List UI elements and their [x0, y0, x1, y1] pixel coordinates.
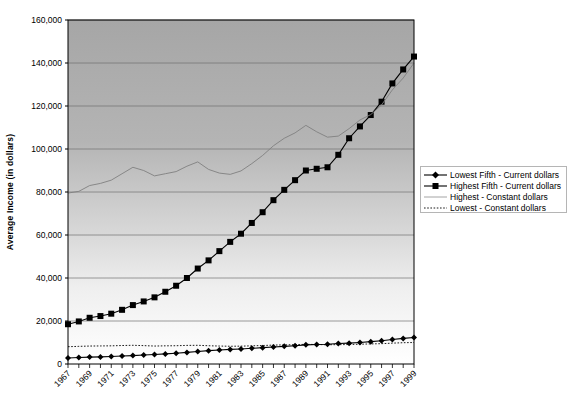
y-tick-label: 20,000 — [36, 316, 62, 326]
x-tick-label: 1991 — [311, 368, 332, 389]
legend-item-label[interactable]: Lowest - Constant dollars — [450, 203, 546, 213]
data-point-marker — [238, 231, 244, 237]
x-tick-label: 1969 — [74, 368, 95, 389]
x-tick-label: 1989 — [290, 368, 311, 389]
data-point-marker — [206, 257, 212, 263]
legend-item-label[interactable]: Lowest Fifth - Current dollars — [450, 170, 559, 180]
chart-legend: Lowest Fifth - Current dollarsHighest Fi… — [421, 167, 567, 214]
y-axis-title: Average Income (in dollars) — [5, 134, 15, 251]
y-axis-ticks: 020,00040,00060,00080,000100,000120,0001… — [31, 15, 68, 369]
data-point-marker — [152, 294, 158, 300]
data-point-marker — [108, 311, 114, 317]
data-point-marker — [173, 283, 179, 289]
data-point-marker — [270, 197, 276, 203]
data-point-marker — [303, 168, 309, 174]
data-point-marker — [357, 123, 363, 129]
data-point-marker — [141, 298, 147, 304]
data-point-marker — [195, 266, 201, 272]
x-tick-label: 1975 — [138, 368, 159, 389]
x-tick-label: 1995 — [355, 368, 376, 389]
data-point-marker — [119, 307, 125, 313]
data-point-marker — [346, 135, 352, 141]
legend-marker — [433, 183, 439, 189]
chart-container: 020,00040,00060,00080,000100,000120,0001… — [0, 0, 572, 414]
data-point-marker — [260, 209, 266, 215]
y-tick-label: 60,000 — [36, 230, 62, 240]
y-tick-label: 0 — [57, 359, 62, 369]
x-axis-ticks: 1967196919711973197519771979198119831985… — [52, 364, 419, 389]
x-tick-label: 1997 — [376, 368, 397, 389]
data-point-marker — [162, 289, 168, 295]
data-point-marker — [389, 80, 395, 86]
income-line-chart: 020,00040,00060,00080,000100,000120,0001… — [0, 0, 572, 414]
data-point-marker — [130, 302, 136, 308]
x-tick-label: 1999 — [398, 368, 419, 389]
x-tick-label: 1967 — [52, 368, 73, 389]
data-point-marker — [335, 152, 341, 158]
y-tick-label: 100,000 — [31, 144, 62, 154]
y-tick-label: 40,000 — [36, 273, 62, 283]
data-point-marker — [400, 66, 406, 72]
x-tick-label: 1983 — [225, 368, 246, 389]
y-tick-label: 160,000 — [31, 15, 62, 25]
y-tick-label: 140,000 — [31, 58, 62, 68]
data-point-marker — [227, 239, 233, 245]
x-tick-label: 1993 — [333, 368, 354, 389]
x-tick-label: 1985 — [247, 368, 268, 389]
x-tick-label: 1973 — [117, 368, 138, 389]
data-point-marker — [325, 164, 331, 170]
y-tick-label: 80,000 — [36, 187, 62, 197]
x-tick-label: 1977 — [160, 368, 181, 389]
data-point-marker — [249, 220, 255, 226]
x-tick-label: 1981 — [203, 368, 224, 389]
data-point-marker — [216, 248, 222, 254]
data-point-marker — [292, 177, 298, 183]
legend-item-label[interactable]: Highest Fifth - Current dollars — [450, 181, 561, 191]
data-point-marker — [97, 313, 103, 319]
data-point-marker — [87, 315, 93, 321]
y-tick-label: 120,000 — [31, 101, 62, 111]
data-point-marker — [184, 275, 190, 281]
x-tick-label: 1987 — [268, 368, 289, 389]
x-tick-label: 1979 — [182, 368, 203, 389]
legend-item-label[interactable]: Highest - Constant dollars — [450, 192, 548, 202]
data-point-marker — [314, 166, 320, 172]
x-tick-label: 1971 — [95, 368, 116, 389]
data-point-marker — [76, 318, 82, 324]
data-point-marker — [281, 187, 287, 193]
